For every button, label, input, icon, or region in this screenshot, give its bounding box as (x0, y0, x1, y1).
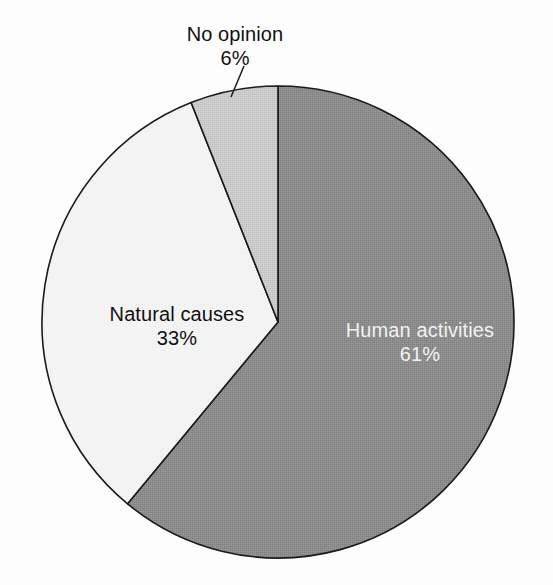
pie-chart: No opinion 6% Natural causes 33% Human a… (0, 0, 553, 585)
pie-label-natural-causes-value: 33% (72, 326, 282, 350)
pie-label-natural-causes: Natural causes 33% (72, 302, 282, 351)
pie-label-natural-causes-name: Natural causes (72, 302, 282, 326)
pie-label-no-opinion-value: 6% (140, 46, 330, 70)
pie-label-human-activities: Human activities 61% (322, 318, 518, 367)
pie-label-no-opinion: No opinion 6% (140, 22, 330, 71)
pie-label-human-activities-name: Human activities (322, 318, 518, 342)
pie-label-human-activities-value: 61% (322, 342, 518, 366)
pie-label-no-opinion-name: No opinion (140, 22, 330, 46)
pie-chart-canvas (0, 0, 553, 585)
